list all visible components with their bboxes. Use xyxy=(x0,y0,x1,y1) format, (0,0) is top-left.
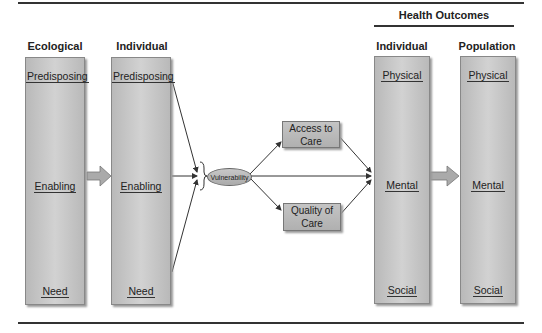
quality-line1: Quality of xyxy=(291,204,333,217)
access-to-care-box: Access toCare xyxy=(282,121,340,148)
individual-enabling-label: Enabling xyxy=(112,180,170,192)
individual-determinants-column: Predisposing Enabling Need xyxy=(111,57,171,305)
individual-outcomes-column: Physical Mental Social xyxy=(374,56,430,304)
individual-mental-label: Mental xyxy=(375,179,429,191)
population-social-label: Social xyxy=(461,284,515,296)
population-physical-label: Physical xyxy=(461,69,515,81)
block-arrow-individual-to-population xyxy=(430,166,459,186)
individual-social-label: Social xyxy=(375,284,429,296)
vulnerability-node: Vulnerability xyxy=(207,168,252,186)
ecological-enabling-label: Enabling xyxy=(26,180,84,192)
block-arrow-ecological-to-individual xyxy=(87,166,111,186)
quality-line2: Care xyxy=(291,217,333,230)
population-outcomes-column: Physical Mental Social xyxy=(460,56,516,304)
individual-predisposing-label: Predisposing xyxy=(112,70,170,82)
quality-of-care-box: Quality ofCare xyxy=(283,203,341,231)
ecological-column: Predisposing Enabling Need xyxy=(25,57,85,305)
population-mental-label: Mental xyxy=(461,179,515,191)
individual-physical-label: Physical xyxy=(375,69,429,81)
individual-need-label: Need xyxy=(112,285,170,297)
ecological-predisposing-label: Predisposing xyxy=(26,70,84,82)
access-line2: Care xyxy=(289,135,332,148)
access-line1: Access to xyxy=(289,122,332,135)
ecological-need-label: Need xyxy=(26,285,84,297)
